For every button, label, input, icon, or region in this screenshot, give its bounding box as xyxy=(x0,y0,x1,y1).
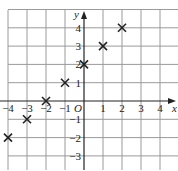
origin-label: O xyxy=(74,102,82,114)
y-tick-label: 1 xyxy=(76,77,82,89)
y-tick-label: −3 xyxy=(69,150,81,162)
y-tick-label: 4 xyxy=(76,22,82,34)
axes xyxy=(0,11,176,170)
tick-labels: −4−3−2−112344321−1−2−3 xyxy=(2,22,163,162)
x-tick-label: 4 xyxy=(157,102,163,114)
x-tick-label: 2 xyxy=(119,102,125,114)
x-axis-label: x xyxy=(171,102,177,114)
grid-lines xyxy=(8,10,178,171)
x-tick-label: −2 xyxy=(40,102,52,114)
x-tick-label: 3 xyxy=(138,102,144,114)
y-tick-label: −1 xyxy=(69,113,81,125)
x-tick-label: −1 xyxy=(59,102,71,114)
y-tick-label: 2 xyxy=(76,58,82,70)
y-axis-label: y xyxy=(73,8,79,20)
y-tick-label: −2 xyxy=(69,132,81,144)
y-tick-label: 3 xyxy=(76,40,82,52)
x-tick-label: −4 xyxy=(2,102,14,114)
scatter-chart: −4−3−2−112344321−1−2−3 x y O xyxy=(0,0,178,170)
x-tick-label: 1 xyxy=(100,102,106,114)
x-tick-label: −3 xyxy=(21,102,33,114)
